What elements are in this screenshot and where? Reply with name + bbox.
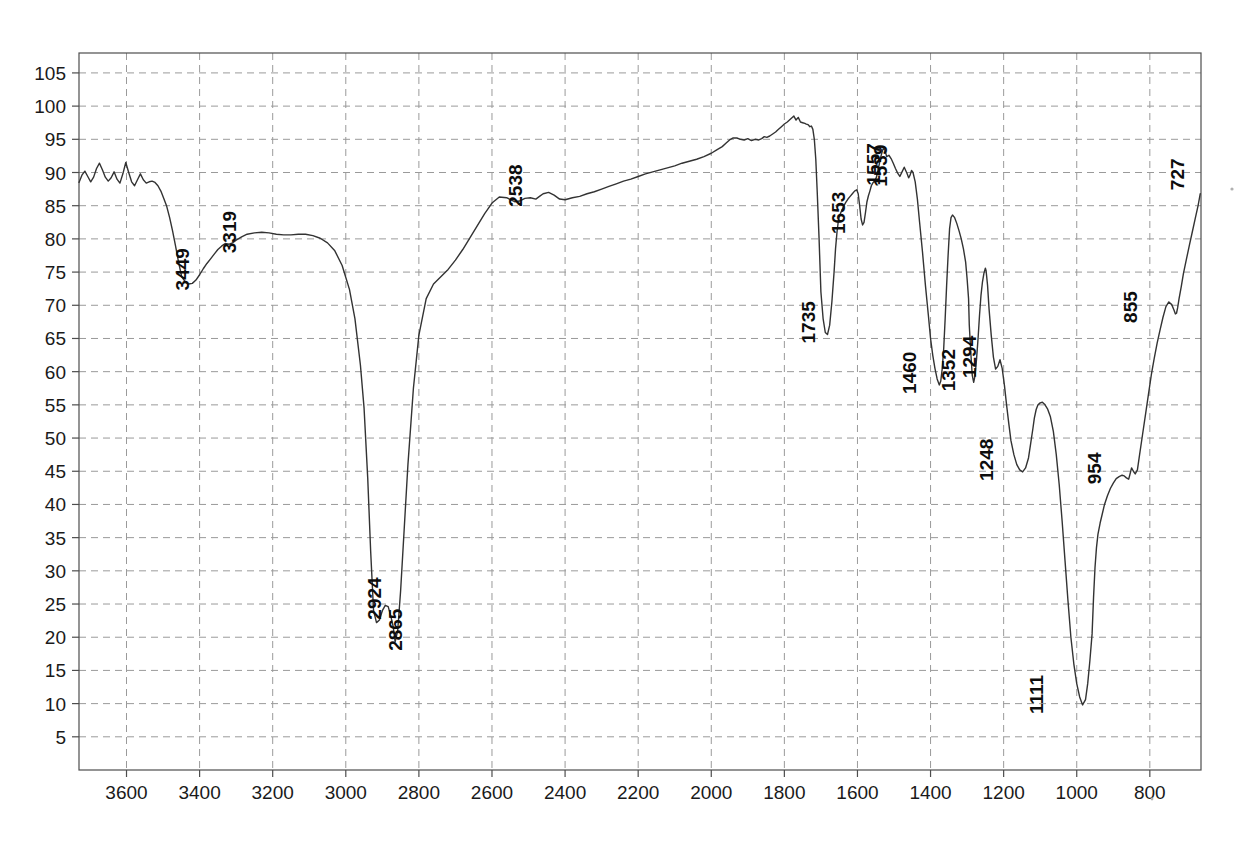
- tickmarks-layer: [72, 73, 1150, 777]
- peak-label: 1653: [828, 192, 849, 234]
- peak-label: 2538: [505, 164, 526, 206]
- y-axis-tick-labels: 5101520253035404550556065707580859095100…: [34, 63, 66, 748]
- y-axis-tick-label: 50: [45, 428, 66, 449]
- x-axis-tick-label: 3000: [325, 782, 367, 803]
- peak-label: 1294: [959, 335, 980, 378]
- peak-label: 1352: [938, 349, 959, 391]
- gridlines-layer: [79, 53, 1201, 770]
- peak-annotations: 3449331929242865253817351653155715391460…: [172, 143, 1188, 714]
- ftir-spectrum-figure: 5101520253035404550556065707580859095100…: [0, 0, 1248, 848]
- y-axis-tick-label: 20: [45, 627, 66, 648]
- x-axis-tick-label: 1600: [836, 782, 878, 803]
- y-axis-tick-label: 40: [45, 494, 66, 515]
- x-axis-tick-label: 2800: [398, 782, 440, 803]
- y-axis-tick-label: 60: [45, 362, 66, 383]
- y-axis-tick-label: 10: [45, 694, 66, 715]
- scan-artifact-speck-2: [1151, 798, 1154, 801]
- y-axis-tick-label: 35: [45, 528, 66, 549]
- x-axis-tick-label: 2000: [690, 782, 732, 803]
- y-axis-tick-label: 100: [34, 96, 66, 117]
- x-axis-tick-label: 2600: [471, 782, 513, 803]
- y-axis-tick-label: 95: [45, 129, 66, 150]
- y-axis-tick-label: 25: [45, 594, 66, 615]
- x-axis-tick-label: 800: [1134, 782, 1166, 803]
- peak-label: 2924: [364, 577, 385, 620]
- x-axis-tick-label: 2400: [544, 782, 586, 803]
- peak-label: 1735: [798, 301, 819, 344]
- y-axis-tick-label: 55: [45, 395, 66, 416]
- peak-label: 3319: [219, 211, 240, 253]
- peak-label: 2865: [385, 608, 406, 651]
- peak-label: 1539: [870, 145, 891, 187]
- peak-label: 1248: [976, 439, 997, 481]
- y-axis-tick-label: 45: [45, 461, 66, 482]
- y-axis-tick-label: 75: [45, 262, 66, 283]
- x-axis-tick-label: 1200: [983, 782, 1025, 803]
- y-axis-tick-label: 90: [45, 163, 66, 184]
- x-axis-tick-labels: 3600340032003000280026002400220020001800…: [105, 782, 1165, 803]
- peak-label: 3449: [172, 248, 193, 290]
- spectrum-plot: 5101520253035404550556065707580859095100…: [0, 0, 1248, 848]
- y-axis-tick-label: 15: [45, 660, 66, 681]
- x-axis-tick-label: 3200: [252, 782, 294, 803]
- peak-label: 954: [1084, 452, 1105, 484]
- peak-label: 727: [1167, 158, 1188, 190]
- y-axis-tick-label: 65: [45, 328, 66, 349]
- y-axis-tick-label: 70: [45, 295, 66, 316]
- y-axis-tick-label: 30: [45, 561, 66, 582]
- scan-artifact-speck: [1230, 187, 1233, 190]
- x-axis-tick-label: 2200: [617, 782, 659, 803]
- peak-label: 855: [1120, 291, 1141, 323]
- x-axis-tick-label: 3400: [178, 782, 220, 803]
- x-axis-tick-label: 1000: [1056, 782, 1098, 803]
- x-axis-tick-label: 1400: [909, 782, 951, 803]
- peak-label: 1111: [1026, 674, 1047, 714]
- x-axis-tick-label: 1800: [763, 782, 805, 803]
- transmittance-trace: [79, 116, 1200, 705]
- y-axis-tick-label: 5: [55, 727, 66, 748]
- peak-label: 1460: [899, 352, 920, 394]
- y-axis-tick-label: 105: [34, 63, 66, 84]
- x-axis-tick-label: 3600: [105, 782, 147, 803]
- plot-border: [79, 53, 1201, 770]
- y-axis-tick-label: 80: [45, 229, 66, 250]
- y-axis-tick-label: 85: [45, 196, 66, 217]
